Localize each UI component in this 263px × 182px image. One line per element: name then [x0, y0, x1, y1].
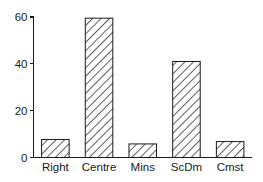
x-axis-category-labels: RightCentreMinsScDmCmst [42, 161, 244, 173]
plot-area: 0204060 RightCentreMinsScDmCmst [0, 0, 263, 182]
x-category-label: ScDm [171, 161, 202, 173]
bars-group [42, 18, 244, 157]
chart-svg: 0204060 RightCentreMinsScDmCmst [0, 0, 263, 182]
bar-right [42, 139, 70, 157]
y-tick-label: 20 [15, 105, 28, 117]
bar-cmst [216, 142, 244, 158]
y-tick-label: 60 [15, 11, 28, 23]
x-category-label: Centre [82, 161, 117, 173]
y-tick-label: 40 [15, 58, 28, 70]
bar-chart-figure: 0204060 RightCentreMinsScDmCmst [0, 0, 263, 182]
bar-mins [129, 144, 157, 158]
x-category-label: Cmst [217, 161, 245, 173]
bar-centre [85, 18, 113, 157]
y-tick-label: 0 [21, 152, 27, 164]
x-category-label: Mins [131, 161, 156, 173]
bar-scdm [173, 61, 201, 157]
x-category-label: Right [42, 161, 70, 173]
y-tick-labels: 0204060 [15, 11, 28, 164]
